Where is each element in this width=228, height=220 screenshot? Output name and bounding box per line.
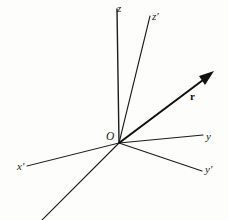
coordinate-axes-figure: z z′ y y′ x′ r O xyxy=(0,0,228,220)
axes-drawing xyxy=(0,0,228,220)
vector-r-arrowhead xyxy=(199,71,214,85)
axis-line-z xyxy=(117,9,119,143)
axis-line-x xyxy=(41,143,119,220)
axis-line-y-prime xyxy=(119,143,202,171)
vector-label-r: r xyxy=(190,91,195,102)
axis-label-z: z xyxy=(117,3,121,14)
axis-label-z-prime: z′ xyxy=(152,11,159,22)
axis-label-y: y xyxy=(206,131,211,142)
axis-label-y-prime: y′ xyxy=(205,164,212,175)
axis-label-x-prime: x′ xyxy=(17,161,24,172)
axis-line-y xyxy=(119,135,203,143)
axis-line-x-prime xyxy=(27,143,119,166)
origin-label: O xyxy=(106,131,114,143)
